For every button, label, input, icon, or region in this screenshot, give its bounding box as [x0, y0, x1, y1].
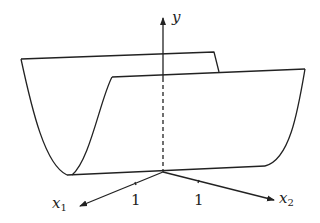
outer-parabola	[21, 59, 67, 175]
x2-axis-label: x2	[279, 191, 294, 208]
back-sheet-edge	[21, 52, 219, 72]
bottom-line	[67, 166, 265, 175]
x2-tick-label: 1	[194, 193, 204, 208]
x1-tick-label: 1	[131, 193, 141, 208]
x1-axis	[80, 172, 163, 206]
y-axis-label: y	[172, 10, 180, 25]
inner-parabola	[72, 77, 112, 175]
parabolic-cylinder-diagram	[0, 0, 320, 223]
front-sheet-edge	[112, 69, 305, 77]
right-parabola	[265, 69, 305, 166]
x1-axis-label: x1	[52, 196, 67, 213]
x2-axis	[163, 172, 274, 200]
